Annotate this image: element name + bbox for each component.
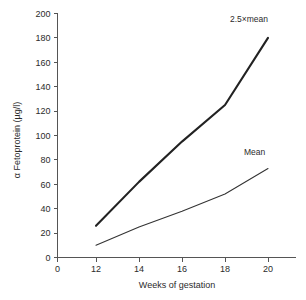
series-annotation-label: Mean	[244, 147, 266, 157]
x-tick-label: 20	[263, 264, 273, 274]
y-tick-label: 0	[45, 253, 50, 263]
y-tick-label: 180	[35, 33, 50, 43]
y-tick-label: 200	[35, 9, 50, 19]
x-tick-label: 12	[91, 264, 101, 274]
x-tick-label: 0	[55, 264, 60, 274]
y-tick-label: 20	[40, 228, 50, 238]
chart-container: 020406080100120140160180200 01214161820 …	[0, 0, 306, 300]
x-tick-label: 18	[220, 264, 230, 274]
x-axis-title: Weeks of gestation	[139, 280, 215, 290]
y-tick-label: 100	[35, 131, 50, 141]
series-annotation-label: 2.5×mean	[230, 14, 268, 24]
y-tick-label: 120	[35, 106, 50, 116]
y-axis-title: α Fetoprotein (µg/l)	[12, 102, 22, 178]
x-tick-label: 16	[177, 264, 187, 274]
y-tick-label: 80	[40, 155, 50, 165]
y-tick-label: 60	[40, 180, 50, 190]
y-tick-label: 40	[40, 204, 50, 214]
x-tick-label: 14	[134, 264, 144, 274]
y-tick-label: 160	[35, 58, 50, 68]
y-tick-label: 140	[35, 82, 50, 92]
fetoprotein-line-chart: 020406080100120140160180200 01214161820 …	[0, 0, 306, 300]
